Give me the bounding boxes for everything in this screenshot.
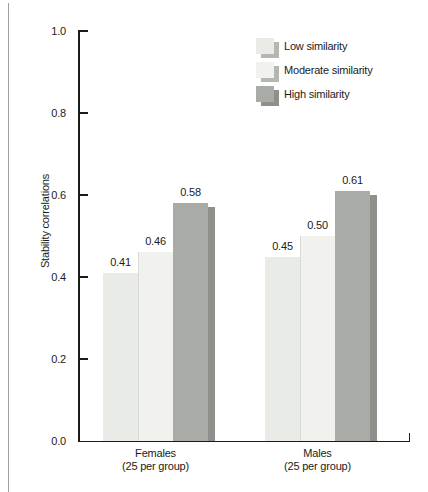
y-tick-0.4 [79,276,88,278]
stability-correlations-bar-chart: Stability correlations 1.00.80.60.40.20.… [0,0,428,492]
bar-value-label: 0.58 [169,186,213,199]
legend-label-high-similarity: High similarity [284,88,349,101]
y-tick-label-0.4: 0.4 [36,271,66,284]
legend-label-low-similarity: Low similarity [284,40,347,53]
x-category-label-females-line2: (25 per group) [91,460,221,473]
y-tick-0.6 [79,194,88,196]
bar-males-high [335,191,370,441]
y-tick-0.8 [79,112,88,114]
x-category-label-females: Females (25 per group) [91,447,221,473]
y-tick-1.0 [79,30,88,32]
bar-males-low [265,257,300,442]
y-tick-label-0.6: 0.6 [36,189,66,202]
bar-value-label: 0.61 [331,174,375,187]
x-category-label-females-line1: Females [91,447,221,460]
bar-value-label: 0.50 [296,219,340,232]
legend-swatch-moderate-similarity [256,62,274,78]
x-axis-end-tick [409,433,411,442]
bar-females-moderate [138,252,174,441]
y-tick-0.2 [79,358,88,360]
legend-label-moderate-similarity: Moderate similarity [284,64,373,77]
page-border-line [8,3,9,492]
bar-value-label: 0.46 [134,235,178,248]
legend-swatch-low-similarity [256,38,274,54]
y-axis-line [78,30,80,442]
legend-swatch-high-similarity [256,86,274,102]
y-tick-label-0.8: 0.8 [36,107,66,120]
bar-value-label: 0.45 [261,240,305,253]
y-tick-label-1.0: 1.0 [36,25,66,38]
bar-females-high [173,203,208,441]
x-category-label-males: Males (25 per group) [253,447,383,473]
y-tick-label-0.2: 0.2 [36,353,66,366]
bar-females-low [103,273,138,441]
bar-value-label: 0.41 [99,256,143,269]
x-category-label-males-line1: Males [253,447,383,460]
x-category-label-males-line2: (25 per group) [253,460,383,473]
bar-males-moderate [300,236,336,441]
y-tick-label-0.0: 0.0 [36,435,66,448]
